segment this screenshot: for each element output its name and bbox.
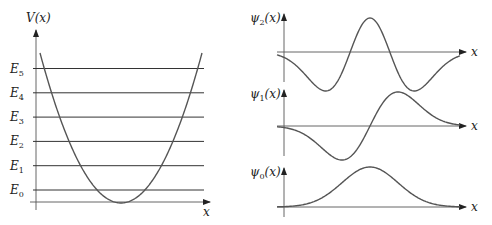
wavefunction-panels: ψ2(x)xψ1(x)xψ0(x)x: [250, 11, 478, 217]
potential-parabola: [40, 53, 202, 203]
psi-0-label: ψ0(x): [250, 165, 281, 181]
psi-2-curve: [277, 18, 460, 91]
energy-level-label-3: E3: [9, 110, 24, 126]
psi-1-panel: ψ1(x)x: [250, 87, 478, 160]
harmonic-oscillator-diagram: V(x) x E0E1E2E3E4E5 ψ2(x)xψ1(x)xψ0(x)x: [0, 0, 492, 225]
energy-level-label-4: E4: [9, 86, 24, 102]
potential-panel: V(x) x E0E1E2E3E4E5: [9, 11, 210, 219]
psi-1-x-label: x: [471, 119, 478, 133]
psi-2-label: ψ2(x): [250, 11, 281, 27]
x-axis-label: x: [203, 205, 210, 219]
v-axis-label: V(x): [26, 11, 51, 25]
psi-2-panel: ψ2(x)x: [250, 11, 478, 91]
psi-2-x-label: x: [471, 45, 478, 59]
psi-0-panel: ψ0(x)x: [250, 165, 478, 217]
energy-level-label-2: E2: [9, 134, 24, 150]
energy-level-label-5: E5: [9, 62, 24, 78]
energy-level-label-0: E0: [9, 183, 24, 199]
psi-1-label: ψ1(x): [250, 87, 281, 103]
energy-level-label-1: E1: [9, 159, 24, 175]
psi-0-curve: [277, 167, 460, 207]
psi-0-x-label: x: [471, 200, 478, 214]
